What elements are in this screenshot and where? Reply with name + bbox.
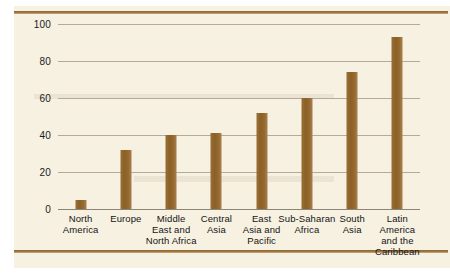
page-margin — [0, 6, 14, 268]
y-axis-tick-label: 40 — [39, 130, 51, 141]
x-axis-label-line: Latin — [368, 213, 426, 224]
plot-area: 020406080100 — [58, 24, 420, 209]
bar-slot — [149, 24, 194, 209]
x-axis-label-line: Caribbean — [368, 246, 426, 257]
bar — [75, 200, 86, 209]
top-rule — [14, 11, 448, 14]
bar-slot — [103, 24, 148, 209]
bar — [211, 133, 222, 209]
bar-slot — [375, 24, 420, 209]
x-axis-label-line: America — [52, 224, 110, 235]
bar-slot — [284, 24, 329, 209]
x-axis-labels: NorthAmericaEuropeMiddleEast andNorth Af… — [58, 213, 420, 259]
x-axis-label-line: North Africa — [142, 235, 200, 246]
y-axis-tick-label: 60 — [39, 93, 51, 104]
gridline-0: 0 — [58, 209, 420, 210]
bar — [347, 72, 358, 209]
bar-slot — [58, 24, 103, 209]
y-axis-tick-label: 80 — [39, 56, 51, 67]
y-axis-tick-label: 0 — [45, 204, 51, 215]
chart-page: 020406080100 NorthAmericaEuropeMiddleEas… — [0, 0, 450, 279]
x-axis-label: LatinAmericaand theCaribbean — [368, 213, 426, 257]
y-axis-tick-label: 20 — [39, 167, 51, 178]
bar — [301, 98, 312, 209]
bar — [392, 37, 403, 209]
bar-slot — [330, 24, 375, 209]
y-axis-tick-label: 100 — [34, 19, 51, 30]
bar-series — [58, 24, 420, 209]
x-axis-label-line: and the — [368, 235, 426, 246]
bar — [120, 150, 131, 209]
x-axis-label-line: Pacific — [233, 235, 291, 246]
x-axis-label-line: America — [368, 224, 426, 235]
bar — [256, 113, 267, 209]
bar — [166, 135, 177, 209]
bar-slot — [239, 24, 284, 209]
bar-slot — [194, 24, 239, 209]
